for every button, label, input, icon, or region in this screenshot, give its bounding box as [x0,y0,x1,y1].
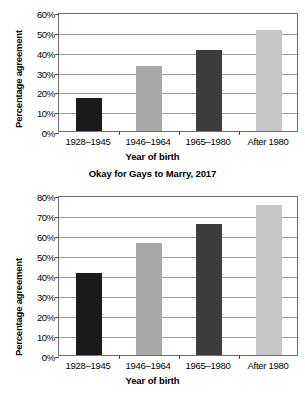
y-tick-label: 60% [37,9,55,20]
y-axis-label-top: Percentage agreement [13,30,24,128]
chart-title-bottom: Okay for Gays to Marry, 2017 [0,168,305,179]
chart-bottom: Percentage agreement 0%10%20%30%40%50%60… [0,186,305,396]
bar [136,243,162,355]
bar [76,98,102,131]
y-axis-label-bottom: Percentage agreement [13,258,24,356]
x-tick-mark [119,131,120,135]
x-tick-label: After 1980 [238,360,298,371]
x-tick-labels-bottom: 1928–19451946–19641965–1980After 1980 [58,360,298,371]
x-axis-label-top: Year of birth [0,151,305,162]
plot-area-bottom: 0%10%20%30%40%50%60%70%80% [58,196,298,356]
x-tick-label: 1965–1980 [178,136,238,147]
y-tick-label: 80% [37,192,55,203]
bar-series-bottom [59,197,297,355]
x-tick-label: After 1980 [238,136,298,147]
x-tick-mark [239,131,240,135]
y-tick-label: 20% [37,312,55,323]
x-tick-labels-top: 1928–19451946–19641965–1980After 1980 [58,136,298,147]
x-tick-label: 1928–1945 [58,136,118,147]
bar [196,224,222,355]
y-tick-label: 20% [37,88,55,99]
y-tick-label: 10% [37,108,55,119]
plot-area-top: 0%10%20%30%40%50%60% [58,13,298,132]
y-tick-mark [55,357,59,358]
x-tick-mark [179,355,180,359]
bar [136,66,162,131]
x-axis-label-bottom: Year of birth [0,375,305,386]
y-tick-mark [55,133,59,134]
y-tick-label: 50% [37,28,55,39]
x-tick-label: 1928–1945 [58,360,118,371]
y-tick-label: 0% [42,352,55,363]
bar-series-top [59,14,297,131]
x-tick-mark [179,131,180,135]
x-tick-mark [119,355,120,359]
bar [256,30,282,131]
bar [76,273,102,355]
y-tick-label: 30% [37,292,55,303]
two-bar-charts-figure: Percentage agreement 0%10%20%30%40%50%60… [0,0,305,396]
y-tick-label: 0% [42,128,55,139]
chart-top: Percentage agreement 0%10%20%30%40%50%60… [0,0,305,170]
y-tick-label: 50% [37,252,55,263]
y-tick-label: 40% [37,272,55,283]
x-tick-label: 1946–1964 [118,360,178,371]
y-tick-label: 70% [37,212,55,223]
x-tick-label: 1946–1964 [118,136,178,147]
x-tick-mark [239,355,240,359]
bar [256,205,282,355]
y-tick-label: 10% [37,332,55,343]
y-tick-label: 60% [37,232,55,243]
x-tick-label: 1965–1980 [178,360,238,371]
y-tick-label: 40% [37,48,55,59]
bar [196,50,222,131]
y-tick-label: 30% [37,68,55,79]
